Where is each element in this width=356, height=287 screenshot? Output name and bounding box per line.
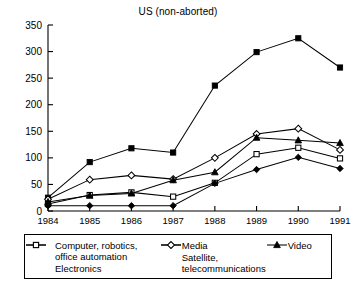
legend-label: Electronics bbox=[55, 263, 101, 274]
series-line bbox=[48, 38, 340, 197]
data-point-marker bbox=[170, 202, 176, 208]
filled-triangle-icon bbox=[266, 240, 288, 244]
legend-label: Satellite, telecommunications bbox=[182, 252, 266, 274]
x-tick-label: 1984 bbox=[37, 215, 58, 226]
legend-label: Video bbox=[288, 240, 312, 251]
y-tick-label: 50 bbox=[31, 179, 43, 190]
line-chart: US (non-aborted) 05010015020025030035019… bbox=[0, 0, 356, 287]
x-tick-label: 1990 bbox=[288, 215, 309, 226]
x-tick-label: 1986 bbox=[121, 215, 142, 226]
plot-area: 0501001502002503003501984198519861987198… bbox=[0, 0, 356, 232]
legend-item-electronics: Electronics bbox=[33, 263, 160, 274]
legend-column-1: Computer, robotics, office automation El… bbox=[25, 240, 160, 278]
data-point-marker bbox=[337, 146, 344, 153]
legend-label: Media bbox=[182, 240, 208, 251]
data-point-marker bbox=[253, 166, 259, 172]
data-point-marker bbox=[296, 36, 301, 41]
data-point-marker bbox=[129, 146, 134, 151]
legend-item-satellite: Satellite, telecommunications bbox=[160, 252, 266, 274]
x-tick-label: 1987 bbox=[163, 215, 184, 226]
data-point-marker bbox=[295, 125, 302, 132]
legend-column-2: Media Satellite, telecommunications bbox=[160, 240, 266, 278]
data-point-marker bbox=[212, 83, 217, 88]
data-point-marker bbox=[171, 150, 176, 155]
y-tick-label: 250 bbox=[25, 73, 42, 84]
data-point-marker bbox=[87, 160, 92, 165]
data-point-marker bbox=[211, 154, 218, 161]
data-point-marker bbox=[295, 154, 301, 160]
open-diamond-icon bbox=[160, 252, 182, 256]
data-point-marker bbox=[337, 65, 342, 70]
x-tick-label: 1988 bbox=[204, 215, 225, 226]
legend-label: Computer, robotics, office automation bbox=[55, 240, 137, 262]
data-point-marker bbox=[337, 165, 343, 171]
x-tick-label: 1989 bbox=[246, 215, 267, 226]
y-tick-label: 100 bbox=[25, 152, 42, 163]
data-point-marker bbox=[171, 194, 176, 199]
data-point-marker bbox=[87, 202, 93, 208]
chart-legend: Computer, robotics, office automation El… bbox=[24, 234, 332, 279]
x-tick-label: 1985 bbox=[79, 215, 100, 226]
y-tick-label: 150 bbox=[25, 126, 42, 137]
legend-column-3: Video bbox=[266, 240, 331, 278]
x-tick-label: 1991 bbox=[329, 215, 350, 226]
y-tick-label: 300 bbox=[25, 46, 42, 57]
data-point-marker bbox=[128, 172, 135, 179]
legend-item-computer-robotics: Computer, robotics, office automation bbox=[33, 240, 160, 262]
y-tick-label: 350 bbox=[25, 20, 42, 31]
data-point-marker bbox=[337, 156, 342, 161]
data-point-marker bbox=[128, 202, 134, 208]
open-square-icon bbox=[33, 263, 55, 267]
data-point-marker bbox=[86, 176, 93, 183]
legend-item-video: Video bbox=[266, 240, 331, 251]
data-point-marker bbox=[254, 152, 259, 157]
data-point-marker bbox=[254, 50, 259, 55]
data-point-marker bbox=[296, 145, 301, 150]
y-tick-label: 200 bbox=[25, 99, 42, 110]
